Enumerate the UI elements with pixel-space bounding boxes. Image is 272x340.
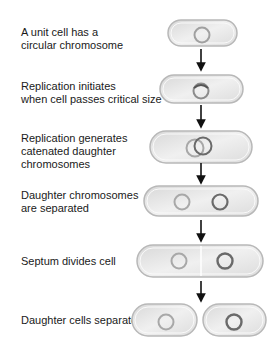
daughter-cell-left: [132, 304, 197, 336]
daughter-cell-right: [203, 304, 266, 336]
cell-catenated-chromosomes: [150, 131, 252, 163]
cell-separated-chromosomes: [144, 186, 258, 216]
cell-replication-initiating: [160, 75, 243, 103]
cell-unit: [168, 20, 237, 46]
cell-septum-dividing: [137, 245, 263, 277]
cell-division-diagram: [0, 0, 272, 340]
